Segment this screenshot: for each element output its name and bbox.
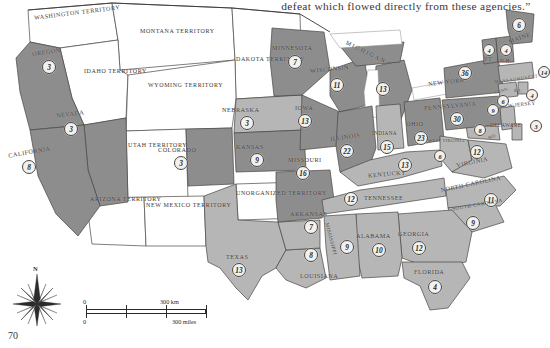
ev-michigan: 13 [376, 82, 390, 96]
region-louisiana [276, 248, 326, 288]
ev-new-jersey: 9 [487, 104, 499, 116]
scale-tick-0 [86, 305, 87, 318]
scale-bar-track [86, 309, 206, 314]
region-delaware [512, 124, 522, 140]
ev-north-carolina: 11 [484, 193, 498, 207]
ev-connecticut: 6 [497, 95, 509, 107]
ev-delaware: 3 [530, 120, 542, 132]
ev-maine: 6 [512, 18, 526, 32]
region-kansas [234, 130, 306, 172]
ev-pennsylvania: 30 [450, 112, 464, 126]
ev-illinois: 22 [340, 144, 354, 158]
ev-indiana: 15 [380, 140, 394, 154]
ev-alabama: 10 [372, 243, 386, 257]
ev-kansas: 9 [250, 153, 264, 167]
region-new-york [444, 58, 504, 98]
compass-star-icon [8, 266, 66, 328]
ev-mississippi: 9 [340, 240, 354, 254]
region-north-carolina [446, 176, 516, 208]
scale-km-label: 300 km [160, 298, 179, 305]
compass-rose: N [8, 266, 66, 328]
ev-colorado: 3 [174, 156, 188, 170]
ev-oregon: 3 [42, 60, 56, 74]
ev-massachusetts: 14 [538, 66, 550, 78]
ev-rhode-island: 4 [526, 89, 538, 101]
scale-bar: 0 300 km 0 300 miles [76, 296, 226, 330]
ev-texas: 13 [232, 263, 246, 277]
scale-km-zero: 0 [83, 298, 86, 305]
ev-kentucky: 13 [398, 158, 412, 172]
ev-vermont: 4 [483, 44, 495, 56]
scale-mi-zero: 0 [83, 318, 86, 325]
ev-missouri: 16 [296, 166, 310, 180]
ev-georgia: 12 [412, 241, 426, 255]
ev-new-hampshire: 4 [500, 44, 512, 56]
ev-maryland: 8 [474, 124, 486, 136]
page-folio: 70 [8, 330, 18, 341]
region-massachusetts [498, 62, 534, 82]
ev-new-york: 36 [458, 66, 472, 80]
ev-nebraska: 3 [240, 116, 254, 130]
ev-minnesota: 7 [288, 55, 302, 69]
ev-tennessee: 12 [344, 192, 358, 206]
ev-florida: 4 [428, 280, 442, 294]
compass-north-label: N [33, 265, 38, 272]
ev-virginia: 12 [470, 145, 484, 159]
scale-tick-3 [206, 305, 207, 318]
region-washington-territory [28, 3, 118, 48]
ev-south-carolina: 9 [466, 216, 480, 230]
region-tennessee [322, 178, 446, 214]
scale-tick-1 [126, 305, 127, 318]
scale-tick-2 [166, 305, 167, 318]
region-colorado [186, 128, 234, 186]
ev-nevada: 3 [64, 122, 78, 136]
ev-iowa: 13 [298, 114, 312, 128]
region-new-mexico-territory [144, 196, 206, 246]
ev-california: 8 [22, 160, 36, 174]
region-montana-territory [112, 3, 235, 70]
ev-west-virginia: 6 [434, 150, 446, 162]
region-wyoming-territory [126, 60, 236, 131]
ev-ohio: 23 [414, 131, 428, 145]
scale-mi-label: 300 miles [172, 318, 196, 325]
ev-wisconsin: 11 [330, 78, 344, 92]
ev-louisiana: 8 [304, 248, 318, 262]
ev-arkansas: 7 [304, 220, 318, 234]
